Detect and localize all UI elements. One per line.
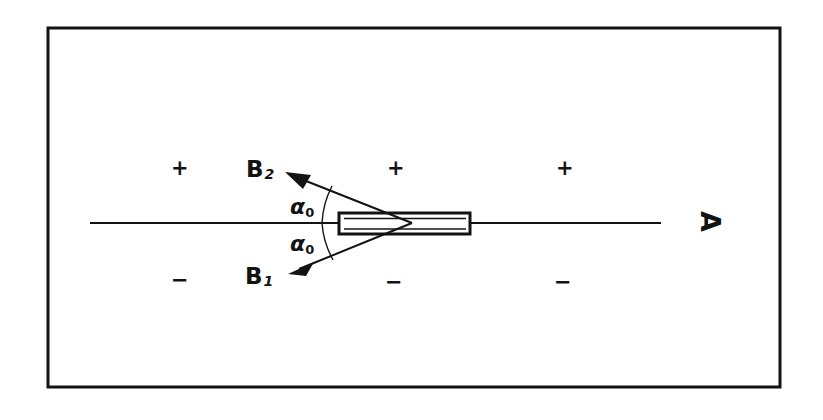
plus-sign-middle: + (387, 158, 405, 179)
magnet-bar (339, 213, 470, 234)
ray-b2-arrowhead (285, 172, 311, 189)
angle-label-upper-subscript: 0 (305, 205, 314, 220)
figure-vector-layer (0, 0, 823, 420)
ray-b1-arrowhead (288, 262, 314, 276)
angle-arc-lower (322, 223, 333, 260)
label-b1: B1 (245, 265, 273, 288)
outer-frame (48, 28, 780, 387)
angle-label-lower: α0 (290, 233, 314, 256)
label-b2: B2 (246, 158, 274, 181)
axis-label-a: A (697, 211, 724, 232)
figure-canvas: B2 B1 α0 α0 + + + − − − A (0, 0, 823, 420)
label-b2-text: B (246, 156, 264, 182)
angle-label-upper-text: α (290, 194, 305, 219)
plus-sign-right: + (556, 158, 574, 179)
minus-sign-left: − (171, 270, 189, 291)
label-b1-text: B (245, 263, 263, 289)
plus-sign-left: + (171, 158, 189, 179)
minus-sign-right: − (554, 272, 572, 293)
label-b1-subscript: 1 (264, 273, 274, 289)
angle-label-upper: α0 (290, 196, 314, 219)
angle-label-lower-subscript: 0 (305, 242, 314, 257)
angle-label-lower-text: α (290, 231, 305, 256)
minus-sign-middle: − (385, 272, 403, 293)
label-b2-subscript: 2 (265, 166, 275, 182)
